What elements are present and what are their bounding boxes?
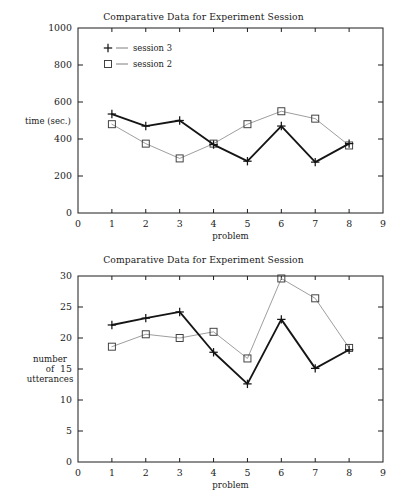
y-tick-label: 10	[60, 394, 72, 405]
x-tick-label: 6	[278, 467, 284, 478]
x-tick-label: 5	[244, 467, 250, 478]
x-tick-label: 5	[244, 218, 250, 229]
x-axis-label: problem	[212, 480, 248, 490]
legend-label: session 3	[133, 43, 172, 53]
x-tick-label: 3	[177, 467, 183, 478]
chart-1-plot-area: 012345678902004006008001000problemtime (…	[0, 0, 407, 252]
x-tick-label: 2	[143, 467, 149, 478]
chart-number-of-utterances: Comparative Data for Experiment Session …	[0, 252, 407, 504]
y-tick-label: 30	[60, 270, 72, 281]
y-tick-label: 800	[54, 59, 72, 70]
y-tick-label: 200	[54, 170, 72, 181]
chart-time-seconds: Comparative Data for Experiment Session …	[0, 0, 407, 252]
x-tick-label: 1	[109, 218, 115, 229]
y-tick-label: 20	[60, 332, 72, 343]
y-tick-label: 25	[60, 301, 72, 312]
series-line-session-2	[112, 111, 349, 158]
x-tick-label: 8	[346, 467, 352, 478]
y-tick-label: 0	[66, 456, 72, 467]
y-axis-label: number	[33, 354, 68, 364]
x-tick-label: 6	[278, 218, 284, 229]
y-axis-label: of	[46, 364, 55, 374]
x-tick-label: 4	[211, 467, 217, 478]
y-tick-label: 5	[66, 425, 72, 436]
y-tick-label: 600	[54, 96, 72, 107]
y-tick-label: 0	[66, 207, 72, 218]
plot-frame	[78, 28, 383, 213]
y-tick-label: 1000	[48, 22, 72, 33]
x-tick-label: 8	[346, 218, 352, 229]
y-axis-label: utterances	[27, 374, 74, 384]
x-tick-label: 3	[177, 218, 183, 229]
legend-label: session 2	[133, 59, 172, 69]
y-axis-label: time (sec.)	[25, 116, 71, 126]
x-tick-label: 0	[75, 467, 81, 478]
x-tick-label: 0	[75, 218, 81, 229]
x-tick-label: 7	[312, 218, 318, 229]
x-tick-label: 1	[109, 467, 115, 478]
series-line-session-3	[112, 114, 349, 162]
y-tick-label: 400	[54, 133, 72, 144]
x-axis-label: problem	[212, 231, 248, 241]
y-tick-label: 15	[60, 363, 72, 374]
chart-2-plot-area: 0123456789051015202530problemnumberofutt…	[0, 252, 407, 504]
x-tick-label: 2	[143, 218, 149, 229]
x-tick-label: 7	[312, 467, 318, 478]
x-tick-label: 9	[380, 218, 386, 229]
x-tick-label: 9	[380, 467, 386, 478]
series-line-session-3	[112, 312, 349, 384]
square-marker-icon	[105, 61, 112, 68]
x-tick-label: 4	[211, 218, 217, 229]
